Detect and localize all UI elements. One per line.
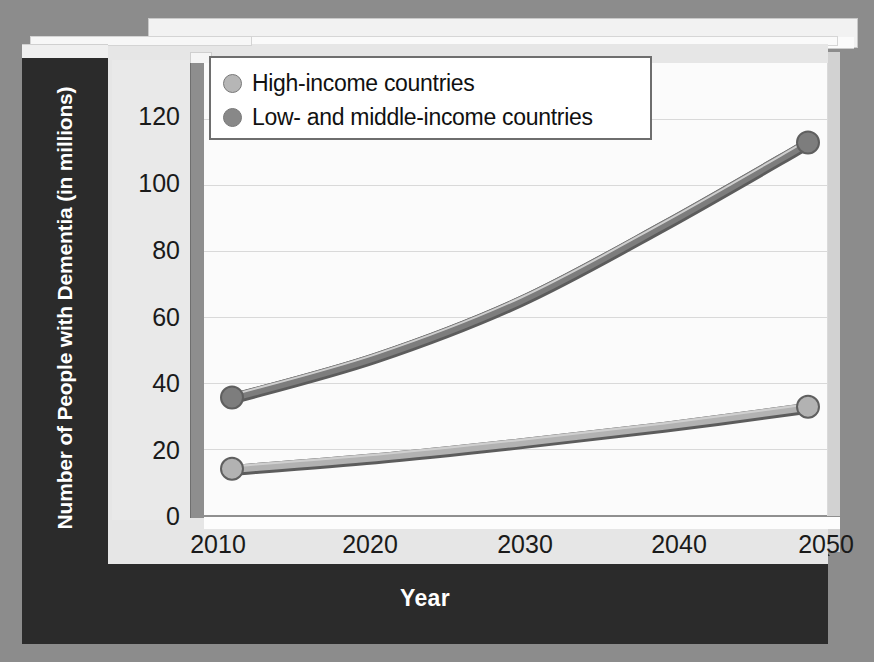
legend-item-high-income: High-income countries [223,66,638,100]
series-line-highlight [232,404,808,466]
y-tick-gutter: 120 100 80 60 40 20 0 [112,60,190,520]
x-tick-label: 2020 [342,530,398,559]
legend-item-low-middle-income: Low- and middle-income countries [223,100,638,134]
y-axis-title: Number of People with Dementia (in milli… [22,58,108,558]
y-tick-label: 80 [152,236,180,265]
y-axis-title-text: Number of People with Dementia (in milli… [52,87,78,530]
x-axis-tick-labels: 2010 2020 2030 2040 2050 [190,530,840,562]
y-title-slab-lip [22,44,108,59]
chart-frame: 120 100 80 60 40 20 0 Number of People w… [0,0,874,662]
x-axis-title-text: Year [400,585,450,612]
y-tick-label: 20 [152,436,180,465]
y-tick-label: 120 [138,102,180,131]
y-tick-label: 60 [152,303,180,332]
board-right-bevel [828,52,840,552]
y-tick-label: 40 [152,369,180,398]
series-data-point [797,131,819,153]
series-line-shadow [232,144,808,399]
plot-wall-3d [190,63,204,518]
series-line-highlight [232,140,808,395]
x-tick-label: 2050 [798,530,854,559]
plot-floor-3d [204,516,840,529]
legend-swatch-icon [223,108,242,127]
series-data-point [221,458,243,480]
legend-item-label: Low- and middle-income countries [252,104,593,131]
x-tick-label: 2030 [497,530,553,559]
x-tick-label: 2010 [190,530,246,559]
y-tick-label: 100 [138,169,180,198]
legend-item-label: High-income countries [252,70,475,97]
series-line [232,142,808,397]
x-axis-title: Year [22,580,828,616]
chart-legend: High-income countries Low- and middle-in… [209,56,652,140]
y-tick-label: 0 [166,502,180,531]
legend-swatch-icon [223,74,242,93]
series-data-point [797,396,819,418]
x-tick-label: 2040 [651,530,707,559]
series-data-point [221,387,243,409]
